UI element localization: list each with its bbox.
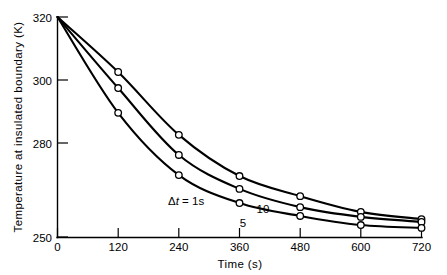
y-tick-label-250: 250 — [33, 232, 52, 244]
data-point-marker — [236, 173, 243, 180]
delta-rest: = 1s — [179, 195, 205, 207]
data-point-marker — [297, 193, 304, 200]
x-tick-label-720: 720 — [412, 241, 431, 253]
x-tick-label-240: 240 — [169, 241, 188, 253]
y-axis-title: Temperature at insulated boundary (K) — [12, 21, 24, 232]
series-layer — [58, 17, 425, 231]
series-label-delta-t: Δt = 1s — [168, 195, 204, 207]
data-point-marker — [236, 200, 243, 207]
data-point-marker — [418, 225, 425, 232]
data-point-marker — [358, 214, 365, 221]
data-point-marker — [115, 110, 122, 117]
series-label-5: 5 — [240, 217, 246, 229]
series-line-1 — [58, 17, 422, 228]
data-point-marker — [297, 204, 304, 211]
x-tick-label-0: 0 — [54, 241, 60, 253]
data-point-marker — [236, 186, 243, 193]
x-axis-ticks — [58, 228, 422, 238]
chart-plot-area: 320 300 280 250 0 120 240 360 480 600 72… — [0, 0, 447, 275]
x-tick-label-600: 600 — [351, 241, 370, 253]
chart-figure: 320 300 280 250 0 120 240 360 480 600 72… — [0, 0, 447, 275]
x-tick-label-360: 360 — [230, 241, 249, 253]
x-axis-title: Time (s) — [218, 258, 263, 270]
data-point-marker — [115, 69, 122, 76]
data-point-marker — [297, 213, 304, 220]
data-point-marker — [176, 152, 183, 159]
series-label-10: 10 — [257, 203, 270, 215]
curve-annotations: 10 5 Δt = 1s — [168, 195, 269, 229]
data-point-marker — [358, 222, 365, 229]
data-point-marker — [115, 85, 122, 92]
y-tick-label-300: 300 — [33, 75, 52, 87]
x-tick-label-120: 120 — [109, 241, 128, 253]
y-axis-ticks — [58, 17, 69, 237]
data-point-marker — [176, 132, 183, 139]
y-tick-label-320: 320 — [33, 12, 52, 24]
series-5 — [58, 17, 425, 225]
x-tick-label-480: 480 — [291, 241, 310, 253]
y-tick-label-280: 280 — [33, 138, 52, 150]
data-point-marker — [176, 172, 183, 179]
series-1 — [58, 17, 425, 231]
